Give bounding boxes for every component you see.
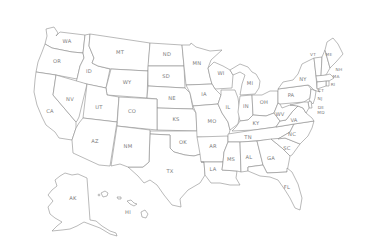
state-label: IN <box>243 103 249 109</box>
state-label: NE <box>168 95 176 101</box>
state-label: LA <box>210 166 217 172</box>
state-ri[interactable] <box>326 81 329 86</box>
state-label: NH <box>336 67 343 72</box>
state-label: WI <box>217 70 224 76</box>
state-label: SD <box>162 73 170 79</box>
state-shapes <box>34 27 343 236</box>
state-label: CO <box>128 108 136 114</box>
state-label: TN <box>243 134 251 140</box>
state-label: MA <box>332 74 339 79</box>
state-label: ID <box>86 68 92 74</box>
state-label: FL <box>284 184 290 190</box>
state-label: KS <box>172 116 179 122</box>
state-label: NC <box>288 131 296 137</box>
state-label: WA <box>63 38 72 44</box>
state-label: TX <box>165 168 173 174</box>
state-label: CA <box>46 108 54 114</box>
state-label: OH <box>260 99 268 105</box>
state-label: MT <box>116 49 125 55</box>
state-label: AR <box>209 143 217 149</box>
state-label: MI <box>247 80 254 86</box>
state-label: NY <box>299 76 307 82</box>
state-label: MN <box>193 60 202 66</box>
state-label: NV <box>66 96 74 102</box>
state-label: ME <box>326 52 333 57</box>
state-label: AK <box>69 195 77 201</box>
state-label: HI <box>125 209 131 215</box>
state-ak[interactable] <box>48 173 117 236</box>
us-map: WA OR ID MT WY ND SD NE KS OK TX CA NV U… <box>0 0 366 250</box>
state-label: MO <box>208 118 217 124</box>
state-label: WY <box>123 79 132 85</box>
state-label: GA <box>267 155 275 161</box>
state-label: WV <box>275 111 284 117</box>
state-label: ND <box>163 51 171 57</box>
state-label: RI <box>331 82 336 87</box>
state-label: AZ <box>91 138 99 144</box>
state-label: AL <box>246 154 253 160</box>
state-label: MD <box>317 110 325 115</box>
state-label: VT <box>310 52 316 57</box>
state-label: KY <box>253 120 260 126</box>
state-label: IL <box>226 104 231 110</box>
state-label: PA <box>288 92 295 98</box>
state-label: OR <box>53 58 61 64</box>
state-label: MS <box>227 156 235 162</box>
state-label: UT <box>95 104 103 110</box>
state-label: NM <box>124 143 133 149</box>
state-label: CT <box>318 88 324 93</box>
state-label: OK <box>179 139 187 145</box>
state-label: IA <box>201 91 207 97</box>
state-co[interactable] <box>117 97 157 130</box>
state-hi[interactable] <box>98 191 148 218</box>
state-label: SC <box>283 145 290 151</box>
state-label: VA <box>290 117 297 123</box>
state-label: NJ <box>318 96 323 101</box>
